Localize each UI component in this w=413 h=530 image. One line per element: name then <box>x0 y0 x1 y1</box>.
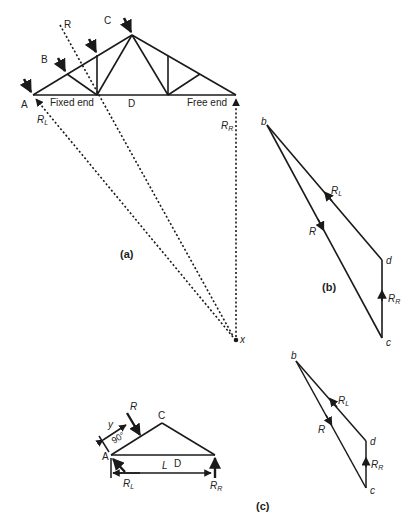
panel-a-truss <box>33 35 236 95</box>
label-RL: RL <box>338 395 349 407</box>
left-top-chord <box>33 35 132 95</box>
label-angle: 90° <box>110 430 127 446</box>
load-arrow <box>24 79 31 92</box>
point-x <box>234 338 239 343</box>
label-RL: RL <box>331 185 342 197</box>
label-fixed-end: Fixed end <box>50 97 94 108</box>
reaction-line-RL <box>36 99 233 337</box>
right-top-chord <box>132 35 236 95</box>
panel-b-force-polygon <box>267 125 382 338</box>
web-member <box>97 35 132 95</box>
label-A: A <box>102 451 109 462</box>
label-RL: RL <box>37 114 48 126</box>
caption-a: (a) <box>120 248 134 260</box>
label-free-end: Free end <box>187 97 227 108</box>
panel-c-force-polygon <box>296 361 366 488</box>
label-D: D <box>128 98 135 109</box>
label-R: R <box>130 401 137 412</box>
vector-R <box>267 125 382 338</box>
label-D: D <box>174 458 181 469</box>
load-arrow <box>58 58 65 71</box>
label-A: A <box>21 99 28 110</box>
caption-c: (c) <box>256 500 270 512</box>
resultant-arrow-R <box>127 413 140 435</box>
truss-force-diagram: A B C D R Fixed end Free end RL RR x (a)… <box>0 0 413 530</box>
panel-c-truss <box>99 423 215 478</box>
label-c: c <box>386 337 391 348</box>
load-arrow <box>89 39 96 52</box>
label-RR: RR <box>221 120 233 132</box>
label-d: d <box>386 255 392 266</box>
label-R: R <box>309 226 316 237</box>
right-top-chord <box>162 423 215 455</box>
label-RR: RR <box>371 459 383 471</box>
reaction-arrow-RL <box>113 459 125 472</box>
resultant-line-R <box>60 25 233 336</box>
label-x: x <box>239 334 246 345</box>
label-c: c <box>370 485 375 496</box>
label-R: R <box>64 19 71 30</box>
arrow-R <box>326 415 330 422</box>
caption-b: (b) <box>322 281 336 293</box>
label-C: C <box>104 15 111 26</box>
label-B: B <box>41 54 48 65</box>
web-member <box>168 74 200 95</box>
label-b: b <box>261 116 267 127</box>
load-arrow <box>124 18 131 32</box>
panel-a-lines-of-action <box>36 25 236 337</box>
web-member <box>132 35 168 95</box>
vector-RL <box>296 361 366 441</box>
label-d: d <box>370 436 376 447</box>
label-RR: RR <box>388 293 400 305</box>
label-L: L <box>162 460 168 471</box>
dimension-extension <box>99 436 109 452</box>
label-R: R <box>318 424 325 435</box>
label-b: b <box>291 350 297 361</box>
label-RL: RL <box>123 478 134 490</box>
arrow-R <box>318 219 322 227</box>
label-C: C <box>158 410 165 421</box>
vector-R <box>296 361 366 488</box>
label-RR: RR <box>210 480 222 492</box>
vector-RL <box>267 125 382 260</box>
label-y: y <box>107 419 114 430</box>
